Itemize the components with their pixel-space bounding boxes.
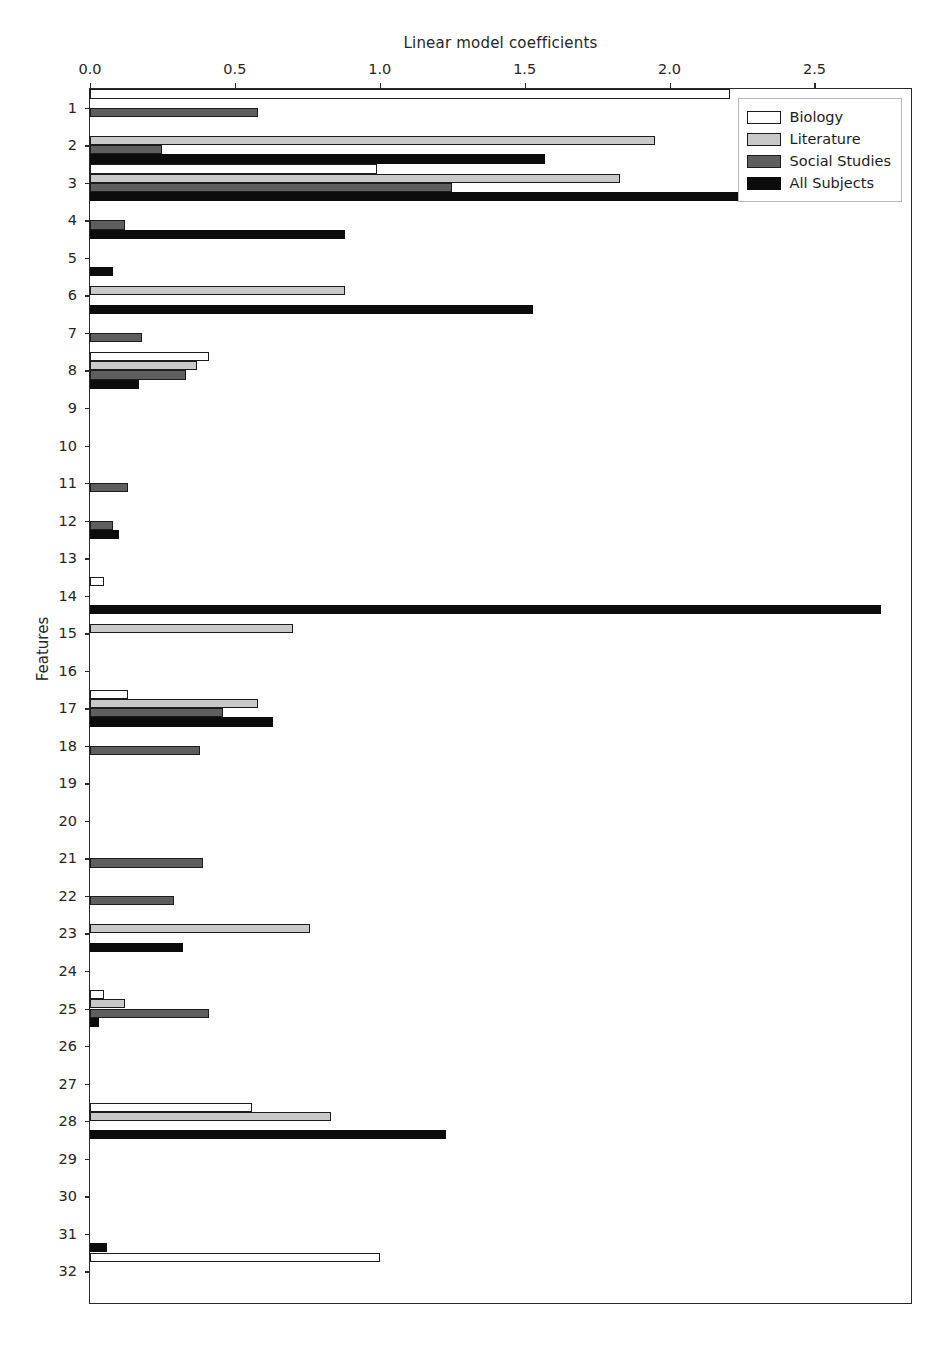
- legend-swatch-social: [747, 155, 781, 168]
- x-tick-mark: [525, 83, 526, 89]
- bar-feature-6-literature: [90, 286, 345, 295]
- bar-feature-7-social: [90, 333, 142, 342]
- y-tick-label-feature-15: 15: [59, 625, 77, 641]
- bar-feature-31-all: [90, 1243, 107, 1252]
- x-tick-mark: [814, 83, 815, 89]
- y-tick-label-feature-9: 9: [68, 400, 77, 416]
- y-tick-label-feature-20: 20: [59, 813, 77, 829]
- bar-feature-2-social: [90, 145, 162, 154]
- legend-label-biology: Biology: [790, 109, 844, 125]
- legend-label-literature: Literature: [790, 131, 861, 147]
- x-tick-mark: [90, 83, 91, 89]
- bar-feature-14-all: [90, 605, 881, 614]
- y-tick-label-feature-25: 25: [59, 1001, 77, 1017]
- bar-feature-17-social: [90, 708, 223, 717]
- y-tick-label-feature-18: 18: [59, 738, 77, 754]
- bar-feature-5-all: [90, 267, 113, 276]
- bar-feature-22-social: [90, 896, 174, 905]
- legend-label-social: Social Studies: [790, 153, 891, 169]
- x-tick-label: 0.0: [78, 61, 101, 77]
- legend-swatch-literature: [747, 133, 781, 146]
- bar-feature-3-biology: [90, 164, 377, 173]
- bar-feature-2-all: [90, 154, 545, 163]
- y-tick-label-feature-6: 6: [68, 287, 77, 303]
- bar-feature-1-social: [90, 108, 258, 117]
- legend-item-social[interactable]: Social Studies: [747, 150, 891, 172]
- bar-feature-12-all: [90, 530, 119, 539]
- y-tick-label-feature-23: 23: [59, 925, 77, 941]
- y-tick-label-feature-11: 11: [59, 475, 77, 491]
- y-tick-mark: [85, 1084, 90, 1085]
- bar-feature-21-social: [90, 858, 203, 867]
- bar-feature-17-all: [90, 717, 273, 726]
- x-tick-label: 2.0: [658, 61, 681, 77]
- x-tick-label: 2.5: [803, 61, 826, 77]
- y-tick-label-feature-17: 17: [59, 700, 77, 716]
- y-tick-mark: [85, 1271, 90, 1272]
- legend-item-all[interactable]: All Subjects: [747, 172, 891, 194]
- x-tick-mark: [670, 83, 671, 89]
- bar-feature-11-social: [90, 483, 128, 492]
- y-tick-mark: [85, 821, 90, 822]
- x-tick-mark: [235, 83, 236, 89]
- bar-feature-12-social: [90, 521, 113, 530]
- bar-feature-18-social: [90, 746, 200, 755]
- legend-label-all: All Subjects: [790, 175, 874, 191]
- y-tick-label-feature-22: 22: [59, 888, 77, 904]
- y-tick-label-feature-30: 30: [59, 1188, 77, 1204]
- y-tick-label-feature-21: 21: [59, 850, 77, 866]
- y-tick-mark: [85, 633, 90, 634]
- bar-feature-28-biology: [90, 1103, 252, 1112]
- bar-feature-17-biology: [90, 690, 128, 699]
- bar-feature-25-biology: [90, 990, 104, 999]
- bar-feature-1-biology: [90, 89, 730, 98]
- plot-area: 0.00.51.01.52.02.5 123456789101112131415…: [89, 88, 912, 1304]
- bar-feature-28-literature: [90, 1112, 331, 1121]
- y-tick-mark: [85, 933, 90, 934]
- y-tick-mark: [85, 446, 90, 447]
- x-tick-label: 1.0: [368, 61, 391, 77]
- y-tick-mark: [85, 1196, 90, 1197]
- bar-feature-3-literature: [90, 174, 620, 183]
- bar-feature-6-all: [90, 305, 533, 314]
- y-tick-label-feature-31: 31: [59, 1226, 77, 1242]
- bar-feature-32-biology: [90, 1253, 380, 1262]
- y-tick-label-feature-2: 2: [68, 137, 77, 153]
- y-tick-label-feature-19: 19: [59, 775, 77, 791]
- y-tick-label-feature-32: 32: [59, 1263, 77, 1279]
- legend-item-biology[interactable]: Biology: [747, 106, 891, 128]
- bar-feature-3-all: [90, 192, 771, 201]
- y-tick-label-feature-24: 24: [59, 963, 77, 979]
- legend-item-literature[interactable]: Literature: [747, 128, 891, 150]
- y-tick-label-feature-14: 14: [59, 588, 77, 604]
- bar-feature-25-literature: [90, 999, 125, 1008]
- chart-title: Linear model coefficients: [89, 34, 912, 52]
- y-tick-mark: [85, 1234, 90, 1235]
- bar-feature-14-biology: [90, 577, 104, 586]
- y-tick-mark: [85, 671, 90, 672]
- y-tick-label-feature-5: 5: [68, 250, 77, 266]
- y-tick-label-feature-1: 1: [68, 100, 77, 116]
- bar-feature-15-literature: [90, 624, 293, 633]
- y-tick-mark: [85, 258, 90, 259]
- bar-feature-25-social: [90, 1009, 209, 1018]
- y-tick-label-feature-13: 13: [59, 550, 77, 566]
- y-tick-label-feature-26: 26: [59, 1038, 77, 1054]
- y-tick-mark: [85, 596, 90, 597]
- bar-feature-8-literature: [90, 361, 197, 370]
- legend-swatch-biology: [747, 111, 781, 124]
- y-tick-mark: [85, 408, 90, 409]
- y-tick-label-feature-12: 12: [59, 513, 77, 529]
- y-axis-label: Features: [34, 599, 52, 699]
- y-tick-label-feature-4: 4: [68, 212, 77, 228]
- legend-swatch-all: [747, 177, 781, 190]
- bar-feature-3-social: [90, 183, 452, 192]
- y-tick-label-feature-10: 10: [59, 438, 77, 454]
- y-tick-mark: [85, 1121, 90, 1122]
- bar-feature-8-social: [90, 370, 186, 379]
- y-tick-label-feature-3: 3: [68, 175, 77, 191]
- y-tick-label-feature-29: 29: [59, 1151, 77, 1167]
- y-tick-mark: [85, 1159, 90, 1160]
- x-tick-label: 0.5: [223, 61, 246, 77]
- bar-feature-8-biology: [90, 352, 209, 361]
